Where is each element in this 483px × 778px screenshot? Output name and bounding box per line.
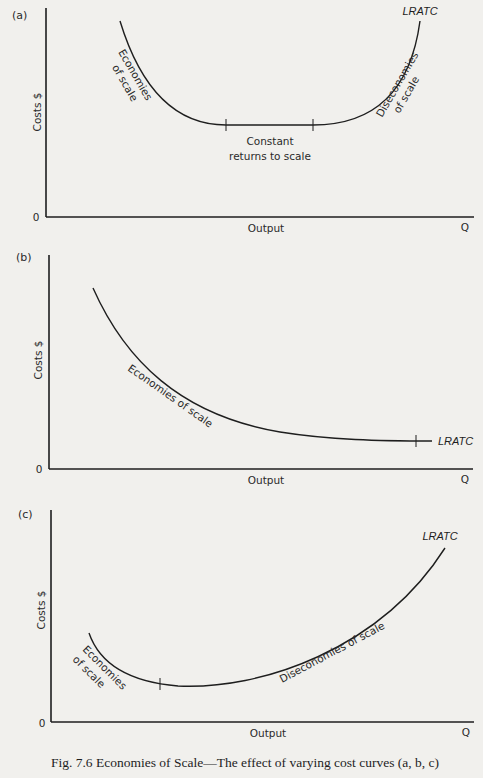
panel-b-lratc-curve — [93, 288, 432, 441]
panel-a-x-axis-label: Output — [248, 222, 284, 234]
economies-of-scale-figure: (a) 0 Q Output Costs $ LRATC Economies o… — [0, 0, 483, 778]
panel-b-x-axis-label: Output — [248, 474, 284, 486]
panel-a-y-axis-label: Costs $ — [31, 93, 43, 132]
panel-b-q-label: Q — [461, 473, 469, 485]
panel-a-lratc-label: LRATC — [402, 5, 437, 17]
panel-c-q-label: Q — [462, 726, 470, 738]
panel-a-economies-label: Economies of scale — [105, 47, 155, 109]
panel-c-economies-label: Economies of scale — [71, 643, 130, 702]
panel-c-origin: 0 — [39, 717, 46, 729]
panel-b-economies-label: Economies of scale — [126, 362, 215, 430]
panel-c-y-axis-label: Costs $ — [35, 591, 47, 630]
panel-c-label: (c) — [18, 508, 33, 521]
panel-c-lratc-label: LRATC — [422, 530, 457, 542]
panel-c: (c) 0 Q Output Costs $ LRATC Economies o… — [18, 508, 474, 739]
panel-c-x-axis-label: Output — [250, 727, 286, 739]
panel-b-y-axis-label: Costs $ — [32, 341, 44, 380]
panel-c-diseconomies-label: Diseconomies of scale — [277, 619, 386, 685]
figure-caption: Fig. 7.6 Economies of Scale—The effect o… — [51, 755, 439, 770]
panel-b-label: (b) — [16, 251, 32, 264]
panel-b-origin: 0 — [36, 463, 43, 475]
panel-a: (a) 0 Q Output Costs $ LRATC Economies o… — [12, 5, 474, 234]
panel-a-diseconomies-label: Diseconomies of scale — [373, 50, 431, 126]
panel-c-lratc-curve — [89, 548, 445, 686]
panel-b: (b) 0 Q Output Costs $ LRATC Economies o… — [16, 251, 473, 486]
panel-b-lratc-label: LRATC — [438, 435, 473, 447]
panel-a-constant-label-1: Constant — [246, 135, 293, 147]
panel-a-q-label: Q — [461, 221, 469, 233]
panel-a-origin: 0 — [33, 211, 40, 223]
panel-a-label: (a) — [12, 9, 27, 22]
panel-a-constant-label-2: returns to scale — [229, 150, 311, 162]
